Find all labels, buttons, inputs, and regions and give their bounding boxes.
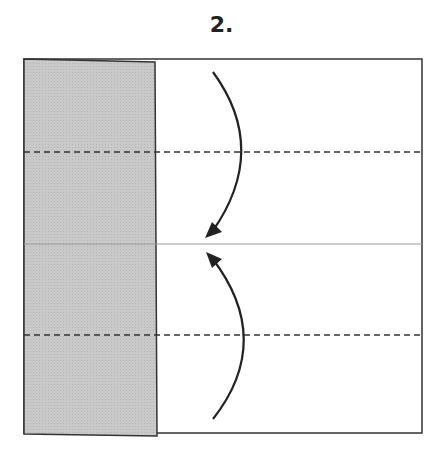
fold-diagram [0, 0, 443, 456]
folded-flap [24, 59, 157, 436]
